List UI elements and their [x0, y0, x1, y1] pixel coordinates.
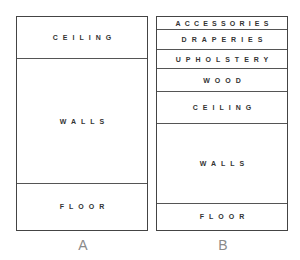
diagram-b-caption: B — [213, 237, 233, 253]
diagram-b-wood: WOOD — [157, 68, 287, 91]
segment-label: CEILING — [48, 34, 116, 41]
segment-label: WALLS — [55, 118, 110, 125]
diagram-a-floor: FLOOR — [17, 183, 147, 229]
segment-label: ACCESSORIES — [171, 20, 272, 27]
segment-label: FLOOR — [195, 213, 250, 220]
segment-label: CEILING — [188, 104, 256, 111]
segment-label: FLOOR — [55, 203, 110, 210]
diagram-b-ceiling: CEILING — [157, 91, 287, 123]
diagram-b-walls: WALLS — [157, 123, 287, 203]
segment-label: WALLS — [195, 160, 250, 167]
segment-label: WOOD — [198, 77, 246, 84]
diagram-a-caption: A — [73, 237, 93, 253]
diagram-b-upholstery: UPHOLSTERY — [157, 49, 287, 68]
segment-label: DRAPERIES — [177, 36, 268, 43]
diagram-b-floor: FLOOR — [157, 203, 287, 229]
diagram-a-walls: WALLS — [17, 58, 147, 183]
diagram-a-ceiling: CEILING — [17, 17, 147, 58]
diagram-b-box: ACCESSORIES DRAPERIES UPHOLSTERY WOOD CE… — [156, 16, 288, 231]
diagram-b-accessories: ACCESSORIES — [157, 17, 287, 29]
diagram-a-box: CEILING WALLS FLOOR — [16, 16, 148, 231]
segment-label: UPHOLSTERY — [171, 56, 274, 63]
diagram-b-draperies: DRAPERIES — [157, 29, 287, 49]
